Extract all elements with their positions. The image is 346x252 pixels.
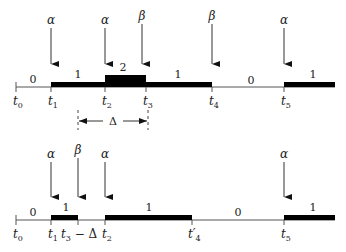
- level-label: 1: [175, 68, 182, 81]
- level-label: 1: [63, 201, 70, 214]
- level-label: 1: [310, 68, 317, 81]
- level-label: 0: [30, 206, 37, 219]
- arrow-label: α: [101, 147, 109, 161]
- bottom-bar-t2-to-t4prime: [105, 215, 192, 220]
- bottom-timeline: α β α α 0 1 1 0 1 t0 t1 t3 − Δ t2 t′4 t5: [13, 143, 335, 243]
- top-timeline: α α β β α 0 1 2 1 0 1 t0 t1 t2 t3 t4 t5: [13, 9, 335, 130]
- arrow-label: α: [280, 147, 288, 161]
- arrow-label: α: [47, 147, 55, 161]
- tick-label-t5: t5: [281, 94, 291, 110]
- bottom-bar-t1-to-t3-delta: [51, 215, 78, 220]
- top-final-level-1-bar: [284, 82, 335, 87]
- top-arrow-labels: α α β β α: [47, 9, 288, 27]
- tick-label-t3: t3: [143, 94, 153, 110]
- top-tick-labels: t0 t1 t2 t3 t4 t5: [13, 94, 291, 110]
- tick-label-t1: t1: [48, 94, 58, 110]
- arrow-label: β: [138, 9, 146, 23]
- bottom-arrow-labels: α β α α: [47, 143, 288, 161]
- top-arrows: [51, 24, 284, 64]
- level-label: 0: [235, 206, 242, 219]
- delta-label: Δ: [109, 115, 117, 128]
- bottom-bar-t5: [284, 215, 335, 220]
- timeline-diagram: α α β β α 0 1 2 1 0 1 t0 t1 t2 t3 t4 t5: [0, 0, 346, 252]
- level-label: 0: [248, 74, 255, 87]
- bottom-tick-labels: t0 t1 t3 − Δ t2 t′4 t5: [13, 227, 291, 243]
- tick-label-t0: t0: [13, 94, 23, 110]
- arrow-label: β: [74, 143, 82, 157]
- tick-label-t3-minus-delta: t3 − Δ: [61, 227, 98, 243]
- tick-label-t2: t2: [102, 227, 112, 243]
- tick-label-t4: t4: [209, 94, 219, 110]
- tick-label-t0: t0: [13, 227, 23, 243]
- arrow-label: α: [101, 13, 109, 27]
- arrow-label: α: [280, 13, 288, 27]
- arrow-label: α: [47, 13, 55, 27]
- level-label: 0: [30, 73, 37, 86]
- level-label: 2: [120, 61, 127, 74]
- top-level-2-bar: [105, 75, 146, 83]
- tick-label-t4-prime: t′4: [188, 227, 201, 243]
- level-label: 1: [310, 201, 317, 214]
- level-label: 1: [146, 201, 153, 214]
- delta-bracket: Δ: [78, 110, 148, 130]
- tick-label-t1: t1: [48, 227, 58, 243]
- bottom-arrows: [51, 158, 284, 197]
- tick-label-t5: t5: [281, 227, 291, 243]
- tick-label-t2: t2: [102, 94, 112, 110]
- arrow-label: β: [208, 9, 216, 23]
- level-label: 1: [75, 68, 82, 81]
